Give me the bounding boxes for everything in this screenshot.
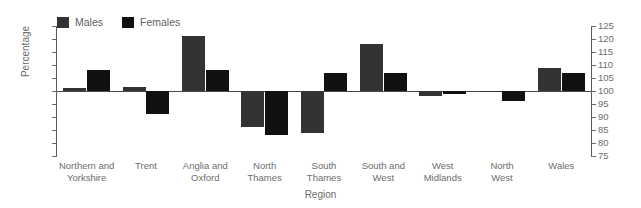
y-tick-label-right-85: 85: [598, 125, 638, 135]
bar[interactable]: [241, 91, 264, 127]
bar-group: [532, 26, 591, 156]
y-tick-right-95: [591, 104, 596, 105]
x-axis-label: North West: [472, 160, 531, 183]
bar[interactable]: [182, 36, 205, 91]
bar-group: [354, 26, 413, 156]
bar[interactable]: [419, 91, 442, 96]
bar[interactable]: [443, 91, 466, 94]
clipped-header-text: [34, 0, 594, 2]
y-tick-label-right-95: 95: [598, 99, 638, 109]
bar-chart: Males Females Percentage 125120115110105…: [0, 0, 641, 208]
bar-group: [472, 26, 531, 156]
bar[interactable]: [146, 91, 169, 114]
y-tick-label-right-100: 100: [598, 86, 638, 96]
bar[interactable]: [123, 87, 146, 91]
x-axis-label: West Midlands: [413, 160, 472, 183]
bar[interactable]: [479, 91, 502, 92]
y-axis-labels-right: 1251201151101051009590858075: [598, 26, 638, 156]
y-axis-title: Percentage: [20, 7, 31, 97]
x-axis-label: Wales: [532, 160, 591, 172]
x-axis-label: Northern and Yorkshire: [57, 160, 116, 183]
x-axis-label: South Thames: [294, 160, 353, 183]
y-tick-right-125: [591, 26, 596, 27]
bar[interactable]: [301, 91, 324, 133]
y-tick-label-right-90: 90: [598, 112, 638, 122]
x-axis-label: South and West: [354, 160, 413, 183]
bar-group: [413, 26, 472, 156]
y-tick-right-80: [591, 143, 596, 144]
bar-group: [176, 26, 235, 156]
x-axis-label: North Thames: [235, 160, 294, 183]
y-tick-right-100: [591, 91, 596, 92]
y-tick-label-right-120: 120: [598, 34, 638, 44]
y-tick-right-75: [591, 156, 596, 157]
bar[interactable]: [502, 91, 525, 101]
plot-area: [57, 26, 591, 156]
y-tick-right-120: [591, 39, 596, 40]
bar[interactable]: [324, 73, 347, 91]
y-tick-right-115: [591, 52, 596, 53]
y-tick-label-right-125: 125: [598, 21, 638, 31]
x-axis-label: Trent: [116, 160, 175, 172]
x-axis-labels: Northern and YorkshireTrentAnglia and Ox…: [57, 160, 591, 186]
bar[interactable]: [87, 70, 110, 91]
bar-group: [235, 26, 294, 156]
x-axis-label: Anglia and Oxford: [176, 160, 235, 183]
bar[interactable]: [562, 73, 585, 91]
bar[interactable]: [384, 73, 407, 91]
y-tick-left-75: [52, 156, 57, 157]
bar[interactable]: [538, 68, 561, 91]
bar[interactable]: [206, 70, 229, 91]
y-tick-right-85: [591, 130, 596, 131]
y-tick-label-right-110: 110: [598, 60, 638, 70]
bar-group: [294, 26, 353, 156]
bar-group: [57, 26, 116, 156]
y-tick-label-right-75: 75: [598, 151, 638, 161]
y-tick-right-90: [591, 117, 596, 118]
y-tick-right-110: [591, 65, 596, 66]
x-axis-title: Region: [0, 189, 641, 200]
bar[interactable]: [63, 88, 86, 91]
y-tick-label-right-105: 105: [598, 73, 638, 83]
bar[interactable]: [265, 91, 288, 135]
bar[interactable]: [360, 44, 383, 91]
y-tick-label-right-115: 115: [598, 47, 638, 57]
y-tick-label-right-80: 80: [598, 138, 638, 148]
bar-group: [116, 26, 175, 156]
y-tick-right-105: [591, 78, 596, 79]
